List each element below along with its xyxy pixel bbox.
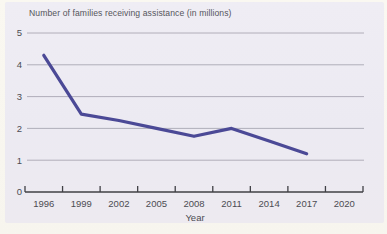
y-tick-label: 5 xyxy=(17,27,22,38)
chart-title: Number of families receiving assistance … xyxy=(29,8,232,18)
x-tick-label: 2005 xyxy=(146,198,167,209)
y-tick-label: 3 xyxy=(17,91,22,102)
x-tick-label: 2020 xyxy=(334,198,355,209)
y-tick-label: 1 xyxy=(17,155,22,166)
x-tick-label: 1999 xyxy=(71,198,92,209)
y-tick-label: 4 xyxy=(17,59,22,70)
x-axis-tick-labels: 199619992002200520082011201420172020 xyxy=(33,198,355,209)
y-tick-label: 0 xyxy=(17,186,22,197)
assistance-line-chart: Number of families receiving assistance … xyxy=(0,0,387,234)
data-series xyxy=(44,55,307,154)
gridlines xyxy=(27,33,364,160)
y-tick-label: 2 xyxy=(17,123,22,134)
x-tick-label: 1996 xyxy=(33,198,54,209)
y-axis-tick-labels: 012345 xyxy=(17,27,22,197)
x-tick-label: 2002 xyxy=(108,198,129,209)
x-axis xyxy=(25,186,363,192)
x-tick-label: 2014 xyxy=(259,198,280,209)
data-line xyxy=(44,55,307,154)
x-tick-label: 2017 xyxy=(296,198,317,209)
scanned-page: Number of families receiving assistance … xyxy=(0,0,387,234)
x-tick-label: 2011 xyxy=(221,198,241,209)
x-tick-label: 2008 xyxy=(183,198,204,209)
x-axis-title: Year xyxy=(185,212,204,223)
